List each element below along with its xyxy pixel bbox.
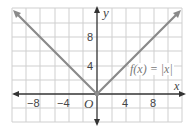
- y-axis-arrow-up: [94, 6, 100, 13]
- x-tick-neg4: −4: [57, 98, 70, 109]
- function-label: f(x) = |x|: [129, 63, 174, 75]
- x-tick-4: 4: [122, 98, 128, 109]
- vertex-point: [95, 92, 100, 97]
- x-tick-8: 8: [150, 98, 156, 109]
- x-axis-arrow-left: [12, 91, 19, 97]
- x-tick-neg8: −8: [27, 98, 40, 109]
- origin-label: O: [84, 97, 93, 110]
- y-tick-4: 4: [87, 61, 93, 72]
- y-tick-8: 8: [87, 32, 93, 43]
- x-axis-label: x: [174, 80, 179, 92]
- y-axis-label: y: [103, 6, 109, 19]
